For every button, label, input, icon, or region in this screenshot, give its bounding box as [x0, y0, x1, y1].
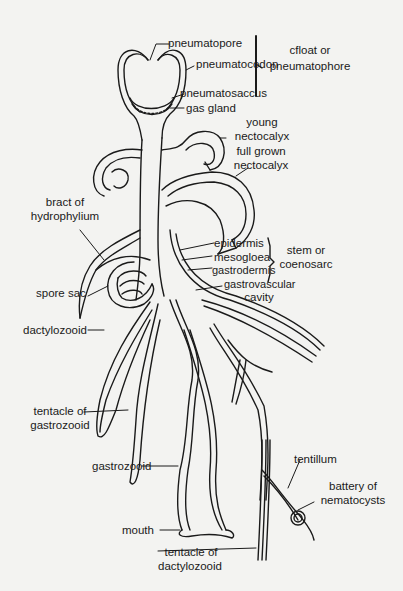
label-young-nectocalyx-2: nectocalyx — [232, 130, 292, 143]
label-float-group-1: cfloat or — [270, 44, 350, 57]
label-gas-gland: gas gland — [186, 102, 236, 115]
pneumatophore — [118, 50, 186, 140]
label-gastrozooid: gastrozooid — [92, 460, 151, 473]
label-tentacle-dactylozooid-1: tentacle of — [156, 546, 226, 559]
label-tentillum: tentillum — [294, 453, 337, 466]
label-gastrodermis: gastrodermis — [212, 264, 276, 277]
label-pneumatopore: pneumatopore — [168, 37, 242, 50]
right-branches — [202, 300, 316, 500]
gastrozooid — [170, 300, 234, 538]
label-tentacle-gastrozooid-2: gastrozooid — [28, 419, 92, 432]
label-stem-group-2: coenosarc — [276, 258, 336, 271]
label-dactylozooid: dactylozooid — [23, 324, 87, 337]
label-bract-2: hydrophylium — [20, 210, 110, 223]
left-nectocalyx — [94, 149, 142, 196]
label-tentacle-gastrozooid-1: tentacle of — [30, 405, 90, 418]
label-pneumatosaccus: pneumatosaccus — [180, 87, 267, 100]
label-mesogloea: mesogloea — [214, 251, 270, 264]
label-spore-sac: spore sac — [36, 287, 86, 300]
label-float-group-2: pneumatophore — [266, 60, 354, 73]
label-full-grown-2: nectocalyx — [226, 159, 296, 172]
label-young-nectocalyx-1: young — [232, 116, 292, 129]
label-full-grown-1: full grown — [226, 145, 296, 158]
label-battery-2: nematocysts — [314, 494, 392, 507]
young-nectocalyx — [162, 131, 224, 170]
label-gastrovascular-1: gastrovascular — [224, 278, 294, 291]
label-bract-1: bract of — [30, 196, 100, 209]
label-battery-1: battery of — [318, 480, 388, 493]
label-stem-group-1: stem or — [276, 244, 336, 257]
label-epidermis: epidermis — [214, 237, 264, 250]
label-gastrovascular-2: cavity — [224, 291, 294, 304]
spore-sac — [108, 262, 154, 308]
label-tentacle-dactylozooid-2: dactylozooid — [150, 560, 230, 573]
label-mouth: mouth — [122, 524, 154, 537]
